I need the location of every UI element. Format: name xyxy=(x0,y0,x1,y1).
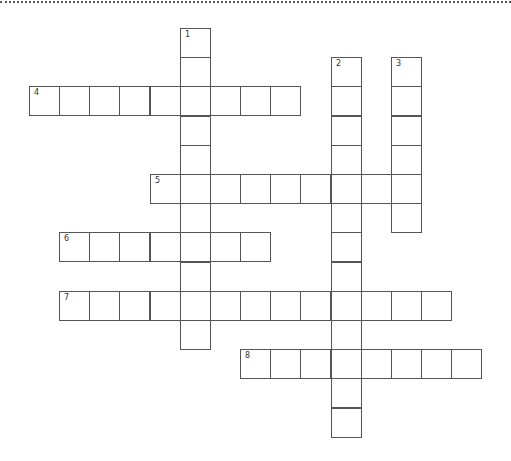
clue-number: 7 xyxy=(64,294,69,302)
crossword-cell[interactable] xyxy=(240,174,271,204)
crossword-cell[interactable] xyxy=(331,408,362,438)
crossword-cell[interactable] xyxy=(361,174,392,204)
crossword-cell[interactable] xyxy=(180,232,211,262)
crossword-cell[interactable] xyxy=(150,232,181,262)
crossword-cell[interactable] xyxy=(391,174,422,204)
clue-number: 4 xyxy=(34,89,39,97)
crossword-cell[interactable] xyxy=(180,116,211,146)
crossword-cell[interactable] xyxy=(89,291,120,321)
crossword-cell[interactable] xyxy=(270,349,301,379)
crossword-cell[interactable] xyxy=(270,291,301,321)
crossword-cell[interactable] xyxy=(270,86,301,116)
crossword-cell[interactable] xyxy=(240,291,271,321)
crossword-grid: 12345678 xyxy=(0,0,511,461)
clue-number: 2 xyxy=(336,60,341,68)
crossword-cell[interactable]: 5 xyxy=(150,174,181,204)
crossword-cell[interactable]: 1 xyxy=(180,28,211,58)
crossword-cell[interactable]: 2 xyxy=(331,57,362,87)
crossword-cell[interactable] xyxy=(300,291,331,321)
crossword-cell[interactable] xyxy=(89,232,120,262)
crossword-cell[interactable] xyxy=(331,232,362,262)
crossword-cell[interactable] xyxy=(421,291,452,321)
crossword-cell[interactable] xyxy=(270,174,301,204)
crossword-cell[interactable] xyxy=(240,232,271,262)
crossword-cell[interactable] xyxy=(150,86,181,116)
crossword-cell[interactable]: 8 xyxy=(240,349,271,379)
crossword-cell[interactable] xyxy=(331,349,362,379)
crossword-cell[interactable] xyxy=(391,349,422,379)
crossword-cell[interactable] xyxy=(331,203,362,233)
crossword-cell[interactable] xyxy=(210,86,241,116)
crossword-cell[interactable] xyxy=(331,378,362,408)
crossword-cell[interactable]: 3 xyxy=(391,57,422,87)
crossword-cell[interactable] xyxy=(391,116,422,146)
crossword-cell[interactable] xyxy=(180,57,211,87)
crossword-cell[interactable] xyxy=(119,291,150,321)
clue-number: 6 xyxy=(64,235,69,243)
crossword-cell[interactable] xyxy=(210,174,241,204)
crossword-cell[interactable] xyxy=(119,232,150,262)
crossword-cell[interactable] xyxy=(451,349,482,379)
crossword-cell[interactable] xyxy=(391,203,422,233)
crossword-cell[interactable] xyxy=(391,86,422,116)
crossword-cell[interactable] xyxy=(180,320,211,350)
clue-number: 5 xyxy=(155,177,160,185)
crossword-cell[interactable] xyxy=(180,86,211,116)
crossword-cell[interactable] xyxy=(89,86,120,116)
crossword-cell[interactable] xyxy=(361,291,392,321)
crossword-cell[interactable] xyxy=(421,349,452,379)
crossword-cell[interactable] xyxy=(391,145,422,175)
crossword-cell[interactable] xyxy=(119,86,150,116)
crossword-cell[interactable]: 4 xyxy=(29,86,60,116)
crossword-cell[interactable] xyxy=(331,116,362,146)
crossword-cell[interactable] xyxy=(331,145,362,175)
crossword-cell[interactable] xyxy=(210,291,241,321)
crossword-cell[interactable]: 7 xyxy=(59,291,90,321)
crossword-cell[interactable] xyxy=(331,262,362,292)
crossword-cell[interactable] xyxy=(240,86,271,116)
crossword-cell[interactable] xyxy=(331,86,362,116)
crossword-cell[interactable] xyxy=(180,145,211,175)
crossword-cell[interactable]: 6 xyxy=(59,232,90,262)
crossword-cell[interactable] xyxy=(180,291,211,321)
crossword-cell[interactable] xyxy=(180,262,211,292)
crossword-cell[interactable] xyxy=(361,349,392,379)
crossword-cell[interactable] xyxy=(180,203,211,233)
clue-number: 1 xyxy=(185,31,190,39)
crossword-cell[interactable] xyxy=(331,320,362,350)
crossword-cell[interactable] xyxy=(300,174,331,204)
crossword-cell[interactable] xyxy=(331,174,362,204)
crossword-cell[interactable] xyxy=(210,232,241,262)
clue-number: 3 xyxy=(396,60,401,68)
crossword-cell[interactable] xyxy=(391,291,422,321)
crossword-cell[interactable] xyxy=(331,291,362,321)
crossword-cell[interactable] xyxy=(59,86,90,116)
clue-number: 8 xyxy=(245,352,250,360)
crossword-cell[interactable] xyxy=(150,291,181,321)
crossword-cell[interactable] xyxy=(300,349,331,379)
crossword-cell[interactable] xyxy=(180,174,211,204)
